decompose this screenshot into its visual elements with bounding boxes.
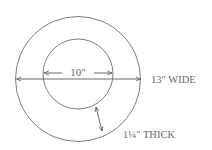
thickness-dimension-arrow <box>96 107 102 131</box>
ring-dimension-diagram: 10″ 13″ WIDE 1¼″ THICK <box>0 0 212 150</box>
inner-diameter-label: 10″ <box>70 66 86 78</box>
outer-width-label: 13″ WIDE <box>151 74 196 85</box>
thickness-label: 1¼″ THICK <box>123 129 175 140</box>
